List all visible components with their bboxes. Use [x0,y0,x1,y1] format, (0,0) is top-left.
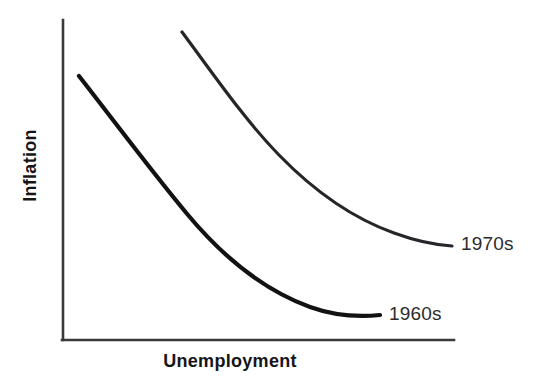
series-label-1960s: 1960s [389,303,442,325]
x-axis-title: Unemployment [0,351,460,372]
chart-canvas [0,0,545,390]
curve-1970s [182,32,452,246]
y-axis-title: Inflation [20,106,41,226]
curve-1960s [79,76,380,316]
series-label-1970s: 1970s [461,233,514,255]
phillips-curve-chart: 1970s 1960s Unemployment Inflation [0,0,545,390]
